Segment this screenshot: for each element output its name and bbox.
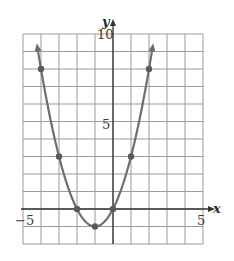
data-point [146,66,152,72]
axes [21,19,215,244]
parabola-chart: y x 10 5 −5 5 [0,0,234,261]
x-tick-max: 5 [197,213,205,228]
data-point [110,206,116,212]
data-point [38,66,44,72]
data-point [128,153,134,159]
data-point [56,153,62,159]
x-tick-min: −5 [15,213,34,228]
data-point [74,206,80,212]
x-axis-label: x [212,201,221,216]
data-point [92,223,98,229]
y-tick-5: 5 [102,117,110,132]
y-tick-10: 10 [97,27,114,42]
